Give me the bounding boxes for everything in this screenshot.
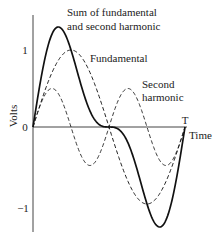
y-axis-label: Volts: [7, 105, 19, 127]
waveform-chart: 1 0 −1 Volts Time T Sum of fundamental a…: [0, 0, 221, 236]
ytick-0: 0: [22, 121, 28, 133]
ytick-1: 1: [22, 44, 28, 56]
annotation-harmonic-line1: Second: [142, 78, 175, 90]
ytick-minus-1: −1: [17, 202, 29, 214]
x-axis-label: Time: [189, 129, 212, 141]
annotation-fundamental: Fundamental: [90, 52, 147, 64]
annotation-sum-line1: Sum of fundamental: [67, 6, 157, 18]
annotation-harmonic-line2: harmonic: [142, 91, 184, 103]
annotation-sum-line2: and second harmonic: [67, 20, 161, 32]
period-label: T: [182, 114, 189, 126]
